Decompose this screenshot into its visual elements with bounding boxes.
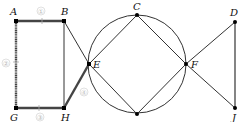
label-E: E <box>92 59 101 70</box>
edge-E-C <box>89 15 137 64</box>
label-C: C <box>133 1 141 12</box>
edge-label-3: ③ <box>36 113 44 122</box>
edge-label-4: ④ <box>80 88 88 97</box>
svg-text:④: ④ <box>81 89 87 97</box>
edge-label-2: ② <box>2 59 10 68</box>
node-H <box>62 106 66 110</box>
node-F <box>184 62 188 66</box>
node-labels: A B G H E C F D J <box>9 1 238 122</box>
label-B: B <box>60 6 68 17</box>
edge-ticks <box>13 18 42 111</box>
edge-H-E <box>64 64 89 108</box>
node-B <box>62 19 66 23</box>
graph-diagram: ① ② ③ ④ A B G H E C F D <box>0 0 241 122</box>
label-F: F <box>190 59 199 70</box>
nodes <box>14 13 237 116</box>
label-A: A <box>9 6 17 17</box>
edge-B-E <box>64 21 89 64</box>
edge-F-D <box>186 22 235 64</box>
svg-text:③: ③ <box>37 114 43 122</box>
svg-text:②: ② <box>3 60 9 68</box>
node-G <box>14 106 18 110</box>
label-G: G <box>10 112 18 122</box>
svg-text:①: ① <box>38 8 44 16</box>
node-I <box>135 112 139 116</box>
edge-label-1: ① <box>37 7 45 16</box>
node-A <box>14 19 18 23</box>
node-C <box>135 13 139 17</box>
highlighted-path <box>16 21 89 108</box>
node-D <box>233 20 237 24</box>
label-J: J <box>230 112 237 122</box>
edge-C-F <box>137 15 186 64</box>
node-J <box>233 106 237 110</box>
label-H: H <box>60 112 70 122</box>
label-D: D <box>229 7 238 18</box>
edge-F-J <box>186 64 235 108</box>
circle <box>88 15 186 113</box>
node-E <box>87 62 91 66</box>
